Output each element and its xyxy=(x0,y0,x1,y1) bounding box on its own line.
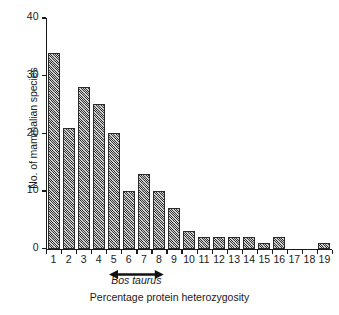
x-axis-tick-label: 7 xyxy=(136,253,151,265)
x-axis-tick-label: 9 xyxy=(166,253,181,265)
bar xyxy=(108,133,120,248)
x-axis-tick-label: 13 xyxy=(227,253,242,265)
y-axis-tick: 40 xyxy=(42,17,47,18)
x-axis-tick xyxy=(332,250,333,254)
chart-figure: No. of mammalian species 010203040 12345… xyxy=(0,0,339,315)
bar xyxy=(93,104,105,248)
y-axis-tick: 10 xyxy=(42,190,47,191)
x-axis-tick-label: 10 xyxy=(181,253,196,265)
y-axis-tick-label: 30 xyxy=(27,68,39,80)
y-axis-tick: 30 xyxy=(42,75,47,76)
y-axis-tick: 20 xyxy=(42,133,47,134)
bar xyxy=(63,128,75,249)
bar xyxy=(273,237,285,249)
bar xyxy=(78,87,90,248)
x-axis-tick-label: 11 xyxy=(197,253,212,265)
x-axis-tick-label: 2 xyxy=(61,253,76,265)
y-axis-tick-label: 40 xyxy=(27,10,39,22)
bar xyxy=(198,237,210,249)
x-axis-title: Percentage protein heterozygosity xyxy=(0,291,339,303)
x-axis-tick-label: 5 xyxy=(106,253,121,265)
x-axis-tick-label: 19 xyxy=(317,253,332,265)
x-axis-tick-label: 15 xyxy=(257,253,272,265)
bar xyxy=(153,191,165,249)
bar xyxy=(123,191,135,249)
bar xyxy=(48,53,60,249)
bar xyxy=(258,243,270,249)
x-axis-tick-label: 12 xyxy=(212,253,227,265)
bar xyxy=(243,237,255,249)
plot-area: 010203040 xyxy=(46,18,332,250)
x-axis-tick-label: 18 xyxy=(302,253,317,265)
x-axis-line xyxy=(46,249,332,250)
x-axis-tick-label: 14 xyxy=(242,253,257,265)
y-axis-tick-label: 20 xyxy=(27,126,39,138)
bar xyxy=(183,231,195,248)
x-axis-tick-label: 8 xyxy=(151,253,166,265)
bar xyxy=(228,237,240,249)
x-axis-tick-label: 16 xyxy=(272,253,287,265)
y-axis-tick-label: 0 xyxy=(33,241,39,253)
x-axis-tick-label: 3 xyxy=(76,253,91,265)
bar xyxy=(138,174,150,249)
bar xyxy=(318,243,330,249)
x-axis-tick-label: 4 xyxy=(91,253,106,265)
bar xyxy=(168,208,180,248)
bar xyxy=(213,237,225,249)
y-axis-tick-label: 10 xyxy=(27,183,39,195)
x-axis-tick-label: 6 xyxy=(121,253,136,265)
x-axis-tick-label: 17 xyxy=(287,253,302,265)
x-axis-tick-label: 1 xyxy=(46,253,61,265)
bos-taurus-label: Bos taurus xyxy=(79,274,194,286)
